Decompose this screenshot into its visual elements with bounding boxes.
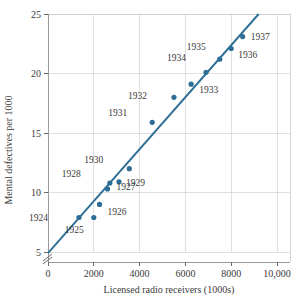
data-point-label-1930: 1930 (84, 155, 103, 165)
y-tick-label: 25 (31, 9, 41, 20)
data-point-1936 (229, 46, 234, 51)
data-point-1931 (150, 120, 155, 125)
data-point-1927 (105, 186, 110, 191)
data-point-1937 (240, 34, 245, 39)
data-point-label-1936: 1936 (238, 50, 257, 60)
data-point-label-1937: 1937 (251, 32, 270, 42)
data-point-1930 (127, 166, 132, 171)
x-tick-label: 4000 (130, 268, 150, 279)
y-axis-title: Mental defectives per 1000 (3, 95, 14, 204)
data-point-label-1926: 1926 (108, 207, 127, 217)
y-tick-label: 5 (36, 247, 41, 258)
y-tick-label: 10 (31, 187, 41, 198)
y-tick-label: 20 (31, 68, 41, 79)
x-tick-label: 6000 (175, 268, 195, 279)
data-point-label-1931: 1931 (108, 108, 127, 118)
data-point-label-1934: 1934 (167, 53, 186, 63)
data-point-1928 (107, 180, 112, 185)
data-point-label-1933: 1933 (199, 85, 218, 95)
x-tick-label: 10,000 (263, 268, 291, 279)
y-tick-label: 15 (31, 128, 41, 139)
data-point-1933 (189, 82, 194, 87)
x-tick-label: 2000 (84, 268, 104, 279)
data-point-label-1925: 1925 (65, 225, 84, 235)
data-point-label-1929: 1929 (126, 178, 145, 188)
x-tick-label: 8000 (221, 268, 241, 279)
data-point-label-1928: 1928 (62, 169, 81, 179)
chart-canvas: 1924192519261927192819291930193119321933… (0, 0, 306, 299)
data-point-1932 (171, 95, 176, 100)
point-labels: 1924192519261927192819291930193119321933… (29, 32, 270, 236)
data-point-1934 (203, 70, 208, 75)
data-point-1924 (76, 215, 81, 220)
data-point-label-1924: 1924 (29, 213, 48, 223)
x-tick-label: 0 (46, 268, 51, 279)
x-axis-title: Licensed radio receivers (1000s) (104, 284, 235, 296)
scatter-chart: 1924192519261927192819291930193119321933… (0, 0, 306, 299)
data-point-1935 (217, 57, 222, 62)
data-point-1926 (97, 202, 102, 207)
data-point-label-1935: 1935 (187, 42, 206, 52)
x-tick-labels: 0200040006000800010,000 (46, 268, 291, 279)
data-point-1925 (91, 215, 96, 220)
data-point-label-1932: 1932 (128, 91, 147, 101)
